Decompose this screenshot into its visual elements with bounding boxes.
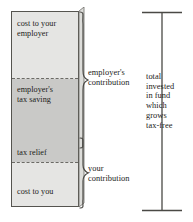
- pension-contribution-diagram: cost to your employer employer's tax sav…: [0, 0, 193, 222]
- brace-label-employer-contribution: employer's contribution: [88, 68, 130, 88]
- brace-label-your-contribution: your contribution: [88, 164, 130, 184]
- bar-segment-employer-cost: cost to your employer: [12, 12, 78, 78]
- bar-segment-cost-to-you: cost to you: [12, 163, 78, 206]
- bar-segment-label-employer-tax-saving: employer's tax saving: [17, 85, 53, 104]
- bar-segment-label-employer-cost: cost to your employer: [17, 19, 56, 38]
- stacked-bar: cost to your employer employer's tax sav…: [11, 11, 79, 207]
- bar-segment-tax-relief: tax relief: [12, 144, 78, 162]
- bar-segment-label-tax-relief: tax relief: [17, 148, 47, 158]
- bar-segment-employer-tax-saving: employer's tax saving: [12, 79, 78, 144]
- total-invested-label: total invested in fund which grows tax-f…: [146, 72, 174, 130]
- bar-segment-label-cost-to-you: cost to you: [17, 187, 53, 197]
